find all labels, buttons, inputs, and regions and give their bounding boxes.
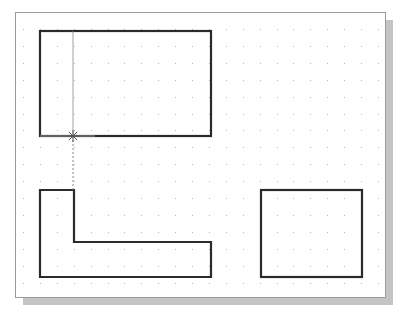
drawing-sheet[interactable] (16, 13, 386, 298)
drawing-canvas-area[interactable] (0, 0, 409, 318)
crosshair-cursor-icon (67, 130, 79, 142)
